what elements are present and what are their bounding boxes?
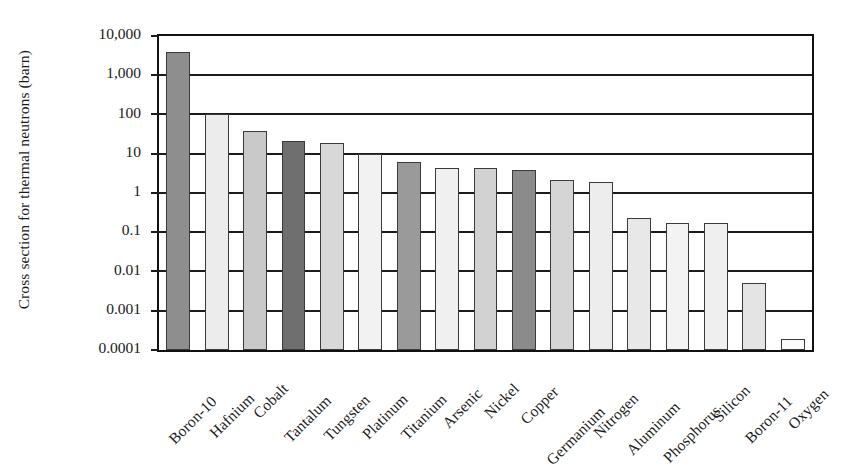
y-axis-tick-label: 100 xyxy=(118,104,141,122)
bar xyxy=(781,339,805,350)
x-axis-tick-label: Copper xyxy=(517,383,562,428)
y-axis-tick-mark xyxy=(151,192,159,194)
bar xyxy=(627,218,651,350)
y-axis-tick-mark xyxy=(151,270,159,272)
bar xyxy=(282,141,306,350)
y-axis-tick-labels: 10,0001,0001001010.10.010.0010.0001 xyxy=(46,0,150,475)
y-axis-tick-label: 0.01 xyxy=(114,261,141,279)
y-axis-tick-mark xyxy=(151,153,159,155)
y-axis-tick-label: 1,000 xyxy=(106,64,141,82)
x-axis-tick-label: Boron-10 xyxy=(165,393,220,448)
bar xyxy=(397,162,421,350)
bar-chart: Cross section for thermal neutrons (barn… xyxy=(0,0,849,475)
bar xyxy=(320,143,344,350)
bar xyxy=(742,283,766,350)
y-axis-tick-label: 0.1 xyxy=(122,221,141,239)
bar xyxy=(358,154,382,350)
bar-series xyxy=(159,36,812,350)
y-axis-tick-label: 1 xyxy=(133,182,141,200)
bar xyxy=(512,170,536,350)
y-axis-tick-mark xyxy=(151,113,159,115)
bar xyxy=(166,52,190,350)
bar xyxy=(474,168,498,350)
bar xyxy=(205,114,229,350)
bar xyxy=(550,180,574,350)
y-axis-tick-label: 0.001 xyxy=(106,300,141,318)
bar xyxy=(243,131,267,350)
y-axis-tick-mark xyxy=(151,74,159,76)
y-axis-tick-mark xyxy=(151,310,159,312)
y-axis-tick-label: 10 xyxy=(126,143,142,161)
y-axis-title: Cross section for thermal neutrons (barn… xyxy=(0,0,48,360)
y-axis-title-text: Cross section for thermal neutrons (barn… xyxy=(14,50,33,309)
bar xyxy=(589,182,613,350)
bar xyxy=(666,223,690,350)
bar xyxy=(435,168,459,350)
y-axis-tick-label: 0.0001 xyxy=(98,339,141,357)
bar xyxy=(704,223,728,350)
x-axis-tick-label: Arsenic xyxy=(439,385,486,432)
y-axis-tick-mark xyxy=(151,35,159,37)
x-axis-tick-label: Silicon xyxy=(709,382,753,426)
y-axis-tick-mark xyxy=(151,231,159,233)
y-axis-tick-label: 10,000 xyxy=(98,25,141,43)
plot-area xyxy=(157,34,814,352)
x-axis-tick-labels: Boron-10HafniumCobaltTantalumTungstenPla… xyxy=(157,350,849,475)
